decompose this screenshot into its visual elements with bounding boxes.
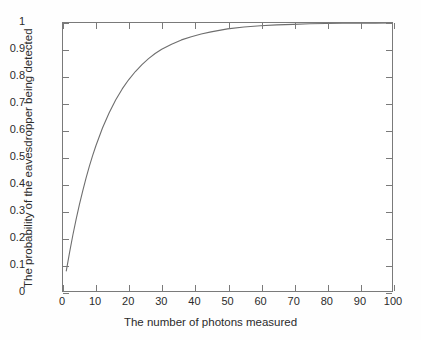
y-axis-title: The probability of the eavesdropper bein… [22, 38, 34, 288]
x-tick-60 [262, 285, 263, 291]
x-tick-50 [229, 285, 230, 291]
x-tick-50 [229, 23, 230, 29]
y-tick-0.8 [386, 77, 392, 78]
plot-area [62, 22, 393, 292]
x-tick-80 [328, 285, 329, 291]
x-tick-40 [195, 285, 196, 291]
y-tick-0.1 [63, 266, 69, 267]
x-tick-0 [63, 285, 64, 291]
y-tick-0.6 [63, 131, 69, 132]
data-curve [63, 23, 392, 291]
y-tick-0.9 [386, 50, 392, 51]
y-tick-label: 1 [19, 16, 25, 27]
x-tick-30 [162, 285, 163, 291]
x-tick-90 [361, 23, 362, 29]
x-tick-100 [394, 23, 395, 29]
x-tick-60 [262, 23, 263, 29]
y-tick-0.2 [386, 239, 392, 240]
x-tick-40 [195, 23, 196, 29]
x-tick-80 [328, 23, 329, 29]
y-tick-0.5 [63, 158, 69, 159]
y-tick-0.5 [386, 158, 392, 159]
y-tick-0.2 [63, 239, 69, 240]
y-tick-0.1 [386, 266, 392, 267]
x-axis-title: The number of photons measured [0, 316, 421, 328]
y-tick-0.4 [63, 185, 69, 186]
x-tick-20 [129, 285, 130, 291]
y-tick-0 [63, 293, 69, 294]
chart-figure: 00.10.20.30.40.50.60.70.80.9101020304050… [0, 0, 421, 340]
y-tick-0.7 [386, 104, 392, 105]
y-tick-0 [386, 293, 392, 294]
x-tick-100 [394, 285, 395, 291]
y-tick-0.7 [63, 104, 69, 105]
x-tick-10 [96, 285, 97, 291]
x-tick-70 [295, 23, 296, 29]
x-tick-30 [162, 23, 163, 29]
x-tick-70 [295, 285, 296, 291]
x-tick-label: 100 [373, 296, 413, 307]
y-tick-0.4 [386, 185, 392, 186]
x-tick-10 [96, 23, 97, 29]
x-tick-90 [361, 285, 362, 291]
y-tick-0.6 [386, 131, 392, 132]
y-tick-0.8 [63, 77, 69, 78]
y-tick-0.3 [63, 212, 69, 213]
x-tick-20 [129, 23, 130, 29]
y-tick-0.9 [63, 50, 69, 51]
y-tick-0.3 [386, 212, 392, 213]
x-tick-0 [63, 23, 64, 29]
y-tick-1 [386, 23, 392, 24]
